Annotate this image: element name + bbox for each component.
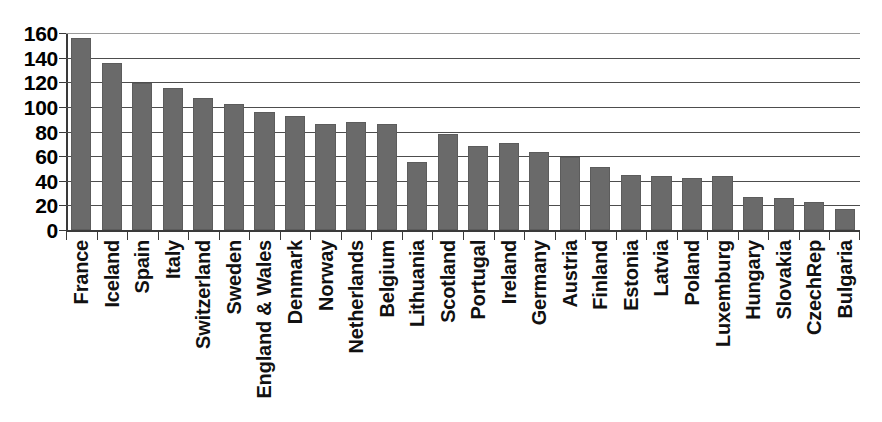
x-axis-tick-mark [219, 231, 220, 240]
x-axis-category-label: Spain [132, 240, 152, 293]
bar [590, 167, 610, 230]
x-axis-label-slot: CzechRep [799, 240, 830, 422]
x-axis-category-labels: FranceIcelandSpainItalySwitzerlandSweden… [66, 240, 860, 422]
y-axis-tick-label: 80 [0, 122, 58, 143]
bar [377, 124, 397, 230]
x-axis-category-label: Poland [682, 240, 702, 305]
x-axis-category-label: Estonia [621, 240, 641, 311]
x-axis-category-label: Germany [529, 240, 549, 325]
y-axis-tick-label: 0 [0, 220, 58, 241]
y-axis-tick-label: 140 [0, 48, 58, 69]
x-axis-tick-mark [310, 231, 311, 240]
y-axis-tick-label: 40 [0, 171, 58, 192]
bar [651, 176, 671, 230]
x-axis-tick-mark [768, 231, 769, 240]
x-axis-label-slot: Scotland [432, 240, 463, 422]
x-axis-label-slot: Spain [127, 240, 158, 422]
x-axis-category-label: Slovakia [774, 240, 794, 320]
x-axis-label-slot: Austria [555, 240, 586, 422]
bar [346, 122, 366, 230]
x-axis-label-slot: Portugal [463, 240, 494, 422]
x-axis-tick-mark [158, 231, 159, 240]
plot-area [66, 33, 860, 230]
x-axis-label-slot: Netherlands [341, 240, 372, 422]
x-axis-category-label: Sweden [224, 240, 244, 314]
x-axis-category-label: Iceland [102, 240, 122, 308]
x-axis-label-slot: Poland [677, 240, 708, 422]
x-axis-tick-mark [646, 231, 647, 240]
bar [774, 198, 794, 230]
bar [163, 88, 183, 230]
x-axis-tick-mark [97, 231, 98, 240]
x-axis-tick-mark [280, 231, 281, 240]
x-axis-tick-mark [677, 231, 678, 240]
x-axis-category-label: Hungary [743, 240, 763, 320]
bar [407, 162, 427, 230]
x-axis-label-slot: Iceland [97, 240, 128, 422]
bar [804, 202, 824, 230]
x-axis-label-slot: Norway [310, 240, 341, 422]
x-axis-category-label: Finland [590, 240, 610, 310]
bar [560, 157, 580, 230]
x-axis-label-slot: Italy [158, 240, 189, 422]
x-axis-tick-mark [859, 231, 860, 240]
x-axis-label-slot: Sweden [219, 240, 250, 422]
x-axis-tick-mark [66, 231, 67, 240]
x-axis-category-label: Bulgaria [835, 240, 855, 318]
bar [682, 178, 702, 230]
x-axis-label-slot: Latvia [646, 240, 677, 422]
x-axis-tick-mark [494, 231, 495, 240]
x-axis-tick-mark [341, 231, 342, 240]
x-axis-label-slot: England & Wales [249, 240, 280, 422]
y-axis-tick-labels: 020406080100120140160 [0, 0, 58, 422]
y-axis-tick-label: 120 [0, 72, 58, 93]
x-axis-label-slot: Finland [585, 240, 616, 422]
x-axis-category-label: Switzerland [193, 240, 213, 349]
x-axis-category-label: Austria [560, 240, 580, 308]
x-axis-tick-mark [555, 231, 556, 240]
x-axis-category-label: Italy [163, 240, 183, 279]
x-axis-tick-mark [432, 231, 433, 240]
x-axis-category-label: CzechRep [804, 240, 824, 335]
x-axis-category-label: England & Wales [254, 240, 274, 399]
x-axis-label-slot: Ireland [494, 240, 525, 422]
bar [468, 146, 488, 230]
bar [743, 197, 763, 230]
x-axis-label-slot: Slovakia [768, 240, 799, 422]
x-axis-tick-mark [738, 231, 739, 240]
x-axis-category-label: Portugal [468, 240, 488, 320]
x-axis-tick-mark [585, 231, 586, 240]
y-axis-tick-label: 60 [0, 146, 58, 167]
bar [224, 104, 244, 230]
x-axis-label-slot: Hungary [738, 240, 769, 422]
bar [712, 176, 732, 230]
x-axis-tick-mark [616, 231, 617, 240]
x-axis-label-slot: Germany [524, 240, 555, 422]
x-axis-label-slot: Bulgaria [829, 240, 860, 422]
x-axis-tick-mark [249, 231, 250, 240]
bar [499, 143, 519, 230]
x-axis-category-label: Norway [316, 240, 336, 311]
x-axis-category-label: Netherlands [346, 240, 366, 353]
x-axis-label-slot: Belgium [371, 240, 402, 422]
bar [132, 83, 152, 230]
x-axis-label-slot: Switzerland [188, 240, 219, 422]
x-axis-category-label: Scotland [438, 240, 458, 323]
x-axis-label-slot: Luxemburg [707, 240, 738, 422]
x-axis-category-label: Luxemburg [713, 240, 733, 347]
bar [835, 209, 855, 230]
x-axis-category-label: France [71, 240, 91, 304]
bar-chart: 020406080100120140160 FranceIcelandSpain… [0, 0, 882, 422]
x-axis-category-label: Belgium [377, 240, 397, 318]
x-axis-category-label: Latvia [651, 240, 671, 297]
y-axis-tick-label: 160 [0, 23, 58, 44]
bar [285, 116, 305, 231]
x-axis-tick-mark [463, 231, 464, 240]
x-axis-tick-mark [829, 231, 830, 240]
x-axis-tick-marks [66, 231, 860, 240]
bar [193, 98, 213, 230]
x-axis-tick-mark [188, 231, 189, 240]
x-axis-label-slot: Denmark [280, 240, 311, 422]
y-axis-tick-label: 100 [0, 97, 58, 118]
bar [254, 112, 274, 230]
